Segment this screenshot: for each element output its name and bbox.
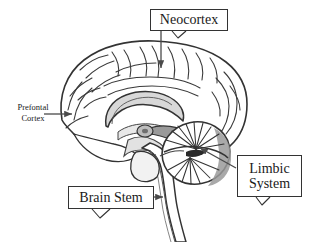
neocortex-box-tail	[172, 31, 186, 38]
limbic-box-tail	[256, 197, 270, 205]
label-brain-stem-text: Brain Stem	[79, 190, 142, 205]
brainstem-box-tail	[92, 209, 110, 218]
label-prefontal-cortex-line2: Cortex	[8, 113, 58, 124]
thalamus-nucleus-core	[142, 129, 148, 134]
label-limbic-system-line2: System	[249, 176, 290, 191]
label-brain-stem: Brain Stem	[68, 186, 154, 209]
label-prefontal-cortex-line1: Prefontal	[8, 102, 58, 113]
label-limbic-system-line1: Limbic	[249, 161, 289, 176]
brain-body	[61, 41, 247, 242]
brain-diagram-figure: Neocortex Prefontal Cortex Limbic System…	[0, 0, 309, 242]
label-limbic-system: Limbic System	[237, 155, 302, 197]
label-prefontal-cortex: Prefontal Cortex	[8, 102, 58, 125]
label-neocortex: Neocortex	[150, 9, 228, 31]
label-neocortex-text: Neocortex	[160, 12, 218, 27]
